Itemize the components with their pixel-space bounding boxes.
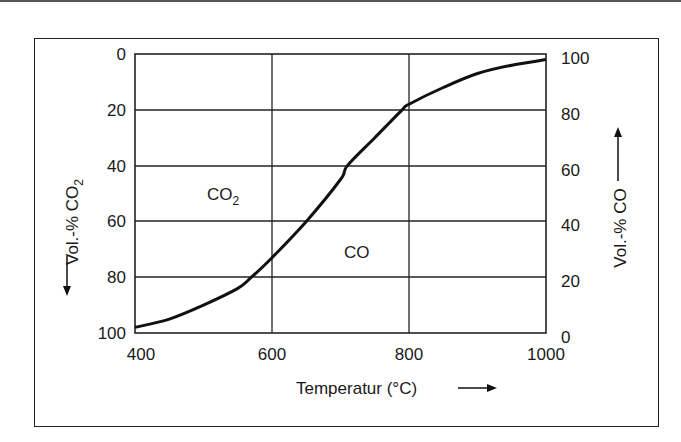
y-left-axis-label: Vol.-% CO2 [63,179,86,265]
svg-text:Vol.-% CO: Vol.-% CO [611,188,630,267]
right-tick: 20 [561,272,580,291]
right-tick: 40 [561,216,580,235]
right-axis-ticks: 100 80 60 40 20 0 [561,49,589,347]
left-tick: 60 [107,212,126,231]
x-tick: 800 [395,345,423,364]
x-axis-arrow-icon [458,384,497,392]
left-tick: 20 [107,101,126,120]
region-label-co: CO [344,243,370,262]
y-right-axis-label: Vol.-% CO [611,188,630,267]
x-axis-label: Temperatur (°C) [296,379,417,398]
chart: 0 20 40 60 80 100 100 80 60 40 20 0 400 … [0,0,681,442]
region-label-co2: CO2 [207,185,240,208]
y-right-arrow-up-icon [614,127,622,181]
left-tick: 0 [117,45,126,64]
plot-area [135,54,546,333]
x-tick: 600 [258,345,286,364]
co-curve [135,60,546,328]
left-tick: 80 [107,268,126,287]
left-axis-ticks: 0 20 40 60 80 100 [98,45,126,343]
left-tick: 40 [107,157,126,176]
svg-text:Vol.-% CO2: Vol.-% CO2 [63,179,86,265]
x-tick: 1000 [527,345,565,364]
right-tick: 80 [561,105,580,124]
x-tick: 400 [127,345,155,364]
left-tick: 100 [98,324,126,343]
grid [135,54,546,333]
right-tick: 100 [561,49,589,68]
right-tick: 60 [561,161,580,180]
x-axis-ticks: 400 600 800 1000 [127,345,565,364]
